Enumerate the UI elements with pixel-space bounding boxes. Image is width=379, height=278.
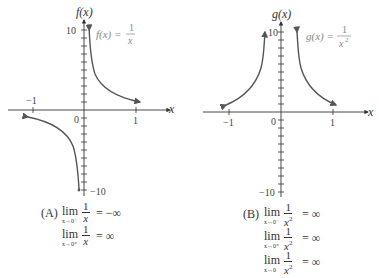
lim-subscript: x→0⁻ <box>62 218 77 224</box>
limit-value: = ∞ <box>302 208 320 220</box>
y-axis-label-a: f(x) <box>76 5 93 19</box>
y-tick-label-neg10-b: −10 <box>259 187 275 198</box>
y-tick-label-10-a: 10 <box>66 25 76 36</box>
endpoint-dot <box>78 189 81 192</box>
function-label-a-num: 1 <box>129 22 134 33</box>
function-label-b-sup: 2 <box>345 36 349 44</box>
lim-subscript: x→0⁻ <box>264 219 279 225</box>
panel-label-b: (B) <box>243 208 259 220</box>
y-tick-label-neg10-a: −10 <box>90 186 106 197</box>
lim-word: lim <box>62 205 78 217</box>
curve-f-negative <box>28 117 79 189</box>
limit-row: lim x→0⁺ 1 x2 = ∞ <box>264 228 374 252</box>
curve-g-positive <box>297 32 336 105</box>
function-label-b-num: 1 <box>342 24 347 35</box>
limit-row: lim x→0⁺ 1 x = ∞ <box>62 226 172 250</box>
fraction: 1 x2 <box>284 226 292 252</box>
fraction: 1 x <box>82 201 90 224</box>
function-label-b: g(x) = <box>306 30 334 43</box>
x-axis-label-a: x <box>168 102 175 116</box>
lim-subscript: x→0 <box>264 267 276 273</box>
limit-value: = ∞ <box>302 256 320 268</box>
x-tick-label-neg1-b: −1 <box>223 117 234 128</box>
curve-g-negative <box>226 32 265 105</box>
lim-word: lim <box>264 230 280 242</box>
chart-a <box>8 20 170 196</box>
limit-row: lim x→0 1 x2 = ∞ <box>264 252 374 276</box>
limit-value: = ∞ <box>96 230 114 242</box>
y-axis-label-b: g(x) <box>272 7 291 21</box>
function-label-b-den: x <box>338 38 344 49</box>
lim-word: lim <box>264 206 280 218</box>
fraction: 1 x <box>82 224 90 247</box>
x-tick-label-0-b: 0 <box>271 116 276 127</box>
lim-word: lim <box>62 228 78 240</box>
x-tick-label-neg1-a: −1 <box>26 95 37 106</box>
x-tick-label-1-a: 1 <box>133 115 138 126</box>
fraction: 1 x2 <box>284 250 292 276</box>
y-tick-label-10-b: 10 <box>268 27 278 38</box>
x-tick-label-1-b: 1 <box>330 117 335 128</box>
lim-subscript: x→0⁺ <box>62 241 77 247</box>
fraction: 1 x2 <box>284 202 292 228</box>
function-label-a-den: x <box>127 35 133 46</box>
limit-row: lim x→0⁻ 1 x = −∞ <box>62 203 172 227</box>
panel-label-a: (A) <box>41 207 58 219</box>
lim-subscript: x→0⁺ <box>264 243 279 249</box>
function-label-a: f(x) = <box>96 28 121 41</box>
limit-row: lim x→0⁻ 1 x2 = ∞ <box>264 204 374 228</box>
x-axis-label-b: x <box>367 105 374 119</box>
limit-value: = ∞ <box>302 232 320 244</box>
x-tick-label-0-a: 0 <box>74 114 79 125</box>
lim-word: lim <box>264 254 280 266</box>
limit-value: = −∞ <box>96 207 121 219</box>
